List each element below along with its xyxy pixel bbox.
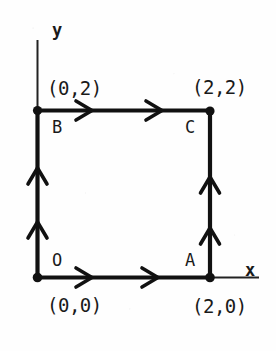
vertex-dot-A: [205, 273, 215, 283]
y-axis-label: y: [52, 22, 62, 39]
x-axis-label: x: [245, 262, 255, 279]
coord-label-bottom-left: (0,0): [47, 296, 102, 315]
vertex-label-b: B: [52, 119, 62, 136]
vertex-dot-C: [205, 106, 214, 115]
vertex-dot-B: [33, 106, 42, 115]
vertex-label-c: C: [185, 119, 195, 136]
coord-label-top-right: (2,2): [192, 78, 247, 97]
vertex-label-a: A: [185, 252, 195, 269]
diagram-page: y x (0,2) (2,2) (0,0) (2,0) B C O A: [0, 0, 276, 351]
coord-label-bottom-right: (2,0): [192, 297, 247, 316]
vertex-label-o: O: [52, 252, 62, 269]
vertex-dot-O: [33, 273, 43, 283]
coord-label-top-left: (0,2): [47, 79, 102, 98]
